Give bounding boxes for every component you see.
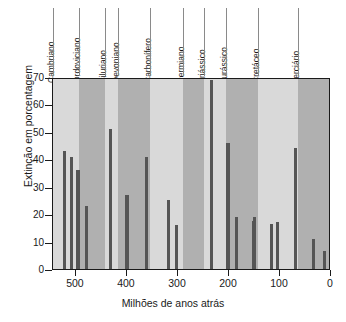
y-axis-tick-label: 70 (4, 73, 44, 83)
bar (226, 143, 229, 269)
x-axis-tick-label: 100 (259, 277, 299, 289)
bar (63, 151, 66, 269)
period-guide-line (150, 8, 151, 76)
x-axis-title: Milhões de anos atrás (0, 297, 346, 309)
period-guide-line (105, 8, 106, 76)
period-band (204, 79, 225, 269)
bar (312, 239, 315, 269)
y-axis-tick-label: 10 (4, 238, 44, 248)
y-axis-tick (45, 270, 52, 271)
x-axis-tick (279, 270, 280, 276)
period-guide-line (204, 8, 205, 76)
x-axis-tick (126, 270, 127, 276)
y-axis-tick-label: 30 (4, 183, 44, 193)
period-guide-line (183, 8, 184, 76)
bar (276, 222, 279, 269)
x-axis-tick (330, 270, 331, 276)
bar (167, 200, 170, 269)
y-axis-tick (45, 133, 52, 134)
y-axis-tick (45, 188, 52, 189)
bar (70, 157, 73, 269)
y-axis-tick (45, 243, 52, 244)
y-axis-tick-label: 50 (4, 128, 44, 138)
plot-area (52, 78, 330, 270)
y-axis-tick (45, 215, 52, 216)
y-axis-tick (45, 78, 52, 79)
period-band (79, 79, 106, 269)
period-band (183, 79, 204, 269)
bar (109, 129, 112, 269)
period-guide-line (79, 8, 80, 76)
period-guide-line (298, 8, 299, 76)
y-axis-tick (45, 105, 52, 106)
x-axis-tick-label: 500 (55, 277, 95, 289)
x-axis-tick-label: 400 (106, 277, 146, 289)
period-guide-line (53, 8, 54, 76)
bar (76, 170, 79, 269)
period-label: Carbonífero (144, 38, 153, 83)
y-axis-tick-label: 20 (4, 210, 44, 220)
y-axis-tick-label: 40 (4, 155, 44, 165)
x-axis-tick (228, 270, 229, 276)
bar (253, 217, 256, 269)
bar (270, 224, 273, 269)
x-axis-tick-label: 300 (157, 277, 197, 289)
y-axis-tick-label: 60 (4, 100, 44, 110)
x-axis-tick (177, 270, 178, 276)
period-label: Cambriano (47, 41, 56, 83)
period-label: Devoniano (112, 42, 121, 83)
period-guide-line (258, 8, 259, 76)
period-guide-line (118, 8, 119, 76)
bar (175, 225, 178, 269)
bar (323, 251, 326, 269)
extinction-chart: CambrianoOrdovicianoSilurianoDevonianoCa… (0, 0, 346, 322)
x-axis-tick (75, 270, 76, 276)
bar (145, 157, 148, 269)
bar (125, 195, 128, 269)
x-axis-tick-label: 0 (310, 277, 346, 289)
bar (210, 80, 213, 269)
y-axis-tick-label: 0 (4, 265, 44, 275)
period-label: Ordoviciano (73, 38, 82, 83)
y-axis-tick (45, 160, 52, 161)
bar (294, 148, 297, 269)
bar (85, 206, 88, 269)
x-axis-tick-label: 200 (208, 277, 248, 289)
bar (235, 217, 238, 269)
period-guide-line (226, 8, 227, 76)
